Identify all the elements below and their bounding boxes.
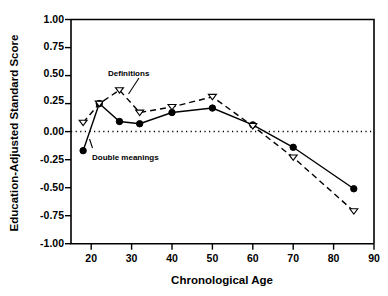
y-tick-label: -1.00 bbox=[40, 237, 64, 249]
data-point-double-meanings bbox=[116, 118, 122, 124]
chart-figure: Education-Adjusted Standard Score 1.00 0… bbox=[0, 0, 388, 296]
x-tick-label: 70 bbox=[287, 252, 299, 264]
y-tick-label: -0.25 bbox=[40, 153, 64, 165]
data-point-double-meanings bbox=[351, 186, 357, 192]
y-tick-labels: 1.00 0.75 0.50 0.25 0.00 -0.25 -0.50 -0.… bbox=[40, 13, 64, 249]
x-tick-label: 30 bbox=[126, 252, 138, 264]
chart-canvas: Education-Adjusted Standard Score 1.00 0… bbox=[0, 0, 388, 296]
y-tick-label: -0.75 bbox=[40, 209, 64, 221]
data-point-double-meanings bbox=[80, 147, 86, 153]
x-tick-label: 50 bbox=[207, 252, 219, 264]
y-tick-label: 0.00 bbox=[44, 125, 65, 137]
data-point-double-meanings bbox=[209, 105, 215, 111]
x-tick-label: 20 bbox=[85, 252, 97, 264]
y-tick-label: -0.50 bbox=[40, 181, 64, 193]
y-tick-label: 0.25 bbox=[44, 94, 65, 106]
data-point-double-meanings bbox=[136, 121, 142, 127]
y-tick-label: 0.50 bbox=[44, 67, 65, 79]
annotation-definitions: Definitions bbox=[108, 69, 150, 78]
x-tick-label: 90 bbox=[368, 252, 380, 264]
y-axis-title: Education-Adjusted Standard Score bbox=[8, 35, 20, 232]
y-tick-label: 1.00 bbox=[44, 13, 65, 25]
annotation-double-meanings: Double meanings bbox=[92, 153, 159, 162]
x-axis-title: Chronological Age bbox=[171, 274, 273, 286]
data-point-double-meanings bbox=[290, 144, 296, 150]
x-tick-label: 80 bbox=[328, 252, 340, 264]
y-tick-label: 0.75 bbox=[44, 40, 65, 52]
x-tick-label: 40 bbox=[166, 252, 178, 264]
x-tick-label: 60 bbox=[247, 252, 259, 264]
